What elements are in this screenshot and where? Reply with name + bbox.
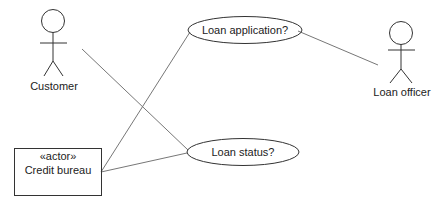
use-case-diagram: Customer «actor» Credit bureau Loan appl… bbox=[0, 0, 440, 206]
association-credit-bureau-loan-application bbox=[101, 32, 190, 172]
actor-stereotype: «actor» bbox=[40, 150, 77, 162]
use-case-loan-application[interactable]: Loan application? bbox=[188, 17, 302, 44]
actor-credit-bureau[interactable]: «actor» Credit bureau bbox=[15, 149, 102, 196]
actor-left-leg bbox=[44, 61, 53, 76]
actor-head-icon bbox=[42, 10, 65, 33]
actor-right-leg bbox=[53, 61, 63, 76]
use-case-label: Loan status? bbox=[212, 146, 275, 158]
actor-label: Loan officer bbox=[373, 86, 431, 98]
use-case-loan-status[interactable]: Loan status? bbox=[187, 139, 299, 166]
actor-left-leg bbox=[390, 69, 401, 83]
actor-right-leg bbox=[401, 69, 412, 83]
actor-customer[interactable]: Customer bbox=[30, 10, 78, 93]
association-credit-bureau-loan-status bbox=[101, 153, 187, 172]
actor-label: Customer bbox=[30, 80, 78, 92]
actor-loan-officer[interactable]: Loan officer bbox=[373, 22, 431, 99]
use-case-label: Loan application? bbox=[202, 24, 288, 36]
actor-head-icon bbox=[390, 22, 413, 45]
association-loan-application-loan-officer bbox=[298, 31, 378, 65]
actor-label: Credit bureau bbox=[25, 164, 92, 176]
association-customer-loan-status bbox=[82, 49, 188, 150]
